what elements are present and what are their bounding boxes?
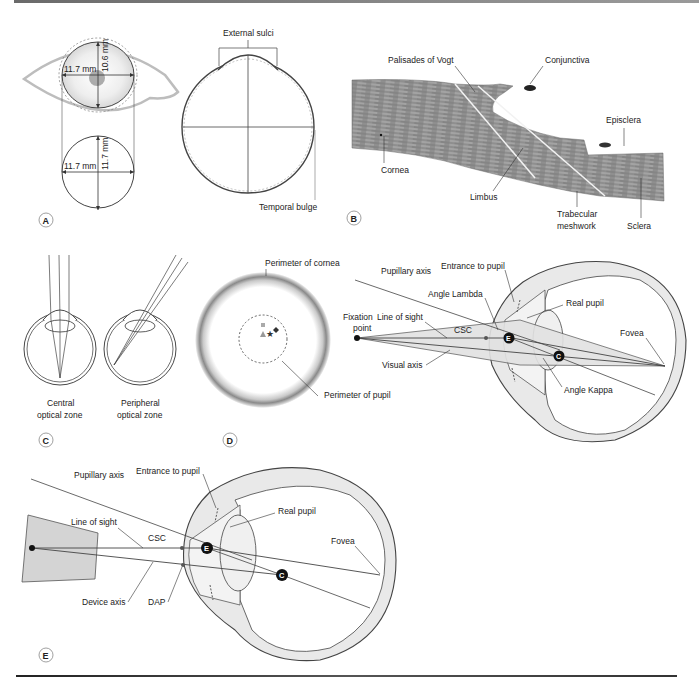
label-horizontal-diameter-bottom: 11.7 mm [64, 161, 96, 171]
marker-c-e: C [279, 571, 285, 580]
panel-e: E C Pupillary axis Entrance to pupil Rea… [22, 466, 396, 662]
label-temporal-bulge: Temporal bulge [259, 202, 317, 212]
marker-e-e: E [204, 544, 209, 553]
label-perimeter-cornea: Perimeter of cornea [265, 258, 340, 268]
label-real-pupil-e: Real pupil [278, 506, 316, 516]
limbus-histology-section [352, 80, 664, 202]
label-angle-lambda: Angle Lambda [428, 289, 483, 299]
cornea-perimeter-ring [195, 272, 331, 408]
label-line-of-sight-e: Line of sight [71, 517, 117, 527]
label-meshwork: meshwork [557, 221, 596, 231]
eye-central [24, 255, 96, 385]
label-csc-e: CSC [148, 533, 166, 543]
marker-c-d: C [556, 353, 561, 360]
marker-e-d: E [506, 335, 511, 342]
eye-cross-section-e [184, 468, 396, 661]
label-visual-axis: Visual axis [382, 360, 422, 370]
label-fovea-e: Fovea [331, 536, 355, 546]
panel-b: Palisades of Vogt Conjunctiva Episclera … [347, 55, 664, 231]
label-external-sulci: External sulci [223, 28, 274, 38]
label-fixation-point: point [353, 323, 372, 333]
label-sclera: Sclera [627, 221, 651, 231]
panel-d: ★ Perimeter of cornea Perimeter of pupil… [195, 258, 686, 447]
label-peripheral: Peripheral [121, 398, 160, 408]
label-real-pupil-d: Real pupil [566, 298, 604, 308]
label-vertical-diameter-bottom: 11.7 mm [100, 138, 110, 170]
bottom-rule [16, 675, 677, 677]
label-cornea: Cornea [381, 165, 409, 175]
label-dap: DAP [148, 597, 166, 607]
eye-peripheral [104, 255, 188, 385]
label-conjunctiva: Conjunctiva [545, 55, 590, 65]
panel-c: Central optical zone Peripheral optical … [24, 255, 188, 447]
panel-letter-d: D [227, 436, 234, 446]
label-episclera: Episclera [606, 115, 641, 125]
label-trabecular: Trabecular [557, 209, 597, 219]
label-central: Central [47, 398, 75, 408]
star-marker: ★ [266, 329, 274, 339]
panel-a: 11.7 mm 10.6 mm 11.7 mm 11.7 mm External… [24, 28, 317, 227]
panel-letter-c: C [43, 436, 50, 446]
figure-canvas: 11.7 mm 10.6 mm 11.7 mm 11.7 mm External… [0, 0, 699, 688]
square-marker [261, 323, 265, 327]
label-central-optical-zone: optical zone [37, 410, 83, 420]
label-vertical-diameter-top: 10.6 mm [100, 39, 110, 72]
label-peripheral-optical-zone: optical zone [117, 410, 163, 420]
panel-letter-e: E [43, 651, 49, 661]
label-pupillary-axis-e: Pupillary axis [74, 470, 124, 480]
panel-letter-b: B [351, 214, 358, 224]
label-fovea-d: Fovea [620, 328, 644, 338]
label-pupillary-axis-d: Pupillary axis [381, 266, 431, 276]
label-entrance-pupil-e: Entrance to pupil [136, 466, 200, 476]
label-csc-d: CSC [454, 325, 472, 335]
label-horizontal-diameter-top: 11.7 mm [64, 64, 96, 74]
label-fixation: Fixation [343, 312, 373, 322]
label-angle-kappa: Angle Kappa [564, 385, 613, 395]
label-limbus: Limbus [470, 192, 497, 202]
panel-letter-a: A [43, 216, 50, 226]
label-entrance-pupil-d: Entrance to pupil [441, 261, 505, 271]
label-line-of-sight-d: Line of sight [377, 312, 423, 322]
label-device-axis: Device axis [82, 597, 125, 607]
label-palisades-of-vogt: Palisades of Vogt [388, 55, 454, 65]
label-perimeter-pupil: Perimeter of pupil [324, 390, 391, 400]
